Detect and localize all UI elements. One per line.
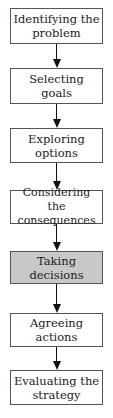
step-evaluating-the-strategy: Evaluating the strategy [10, 370, 103, 405]
step-label: Selecting goals [13, 72, 100, 100]
arrow-down-icon [56, 224, 58, 251]
step-exploring-options: Exploring options [10, 128, 103, 163]
step-taking-decisions: Taking decisions [10, 251, 103, 284]
arrow-down-icon [56, 44, 58, 68]
arrow-down-icon [56, 284, 58, 313]
arrow-down-icon [56, 104, 58, 128]
step-label: Identifying the problem [13, 12, 100, 40]
step-label: Evaluating the strategy [13, 374, 100, 402]
step-label: Agreeing actions [13, 316, 100, 344]
step-considering-the-consequences: Considering the consequences [10, 190, 103, 224]
step-selecting-goals: Selecting goals [10, 68, 103, 104]
step-label: Exploring options [13, 132, 100, 160]
step-agreeing-actions: Agreeing actions [10, 313, 103, 347]
step-label: Considering the consequences [13, 186, 100, 228]
step-label: Taking decisions [13, 254, 100, 282]
step-identifying-the-problem: Identifying the problem [10, 8, 103, 44]
arrow-down-icon [56, 347, 58, 370]
